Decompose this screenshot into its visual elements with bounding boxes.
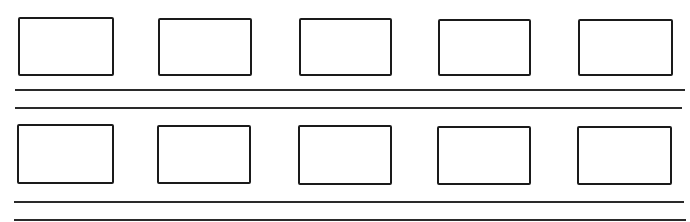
answer-box xyxy=(17,124,114,184)
answer-box xyxy=(437,126,531,185)
answer-box xyxy=(299,18,392,76)
writing-line xyxy=(15,89,685,91)
answer-box xyxy=(298,125,392,185)
writing-line xyxy=(15,107,682,109)
writing-line xyxy=(14,201,684,203)
answer-box xyxy=(158,18,252,76)
answer-box xyxy=(157,125,251,184)
writing-line xyxy=(14,219,686,221)
answer-box xyxy=(577,126,672,185)
answer-box xyxy=(578,19,673,76)
answer-box xyxy=(18,17,114,76)
answer-box xyxy=(438,19,531,76)
